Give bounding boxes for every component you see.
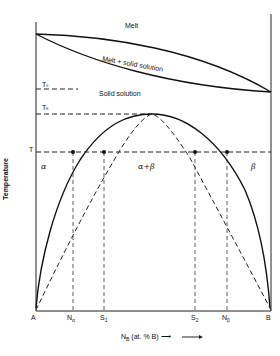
point-n-alpha bbox=[71, 150, 75, 154]
tick-s1: S1 bbox=[100, 314, 107, 323]
tick-a-label: A bbox=[31, 314, 36, 321]
tick-s1-sub: 1 bbox=[105, 317, 108, 323]
point-s1 bbox=[102, 150, 106, 154]
y-axis-label: Temperature bbox=[2, 158, 9, 200]
label-tc: Tₖ bbox=[42, 104, 49, 112]
tick-b-label: B bbox=[266, 314, 271, 321]
solvus-curve bbox=[36, 114, 270, 308]
tick-n-alpha: Nα bbox=[67, 314, 75, 323]
point-n-beta bbox=[225, 150, 229, 154]
tick-n-beta: Nβ bbox=[222, 314, 230, 323]
tick-a: A bbox=[31, 314, 36, 321]
spinodal-curve bbox=[36, 114, 271, 310]
x-axis-label: NB (at. % B) ⟶ bbox=[121, 333, 171, 342]
label-ts: Tₛ bbox=[42, 81, 49, 89]
tick-s2-sub: 2 bbox=[196, 317, 199, 323]
region-alpha: α bbox=[41, 162, 46, 171]
point-s2 bbox=[193, 150, 197, 154]
label-t: T bbox=[29, 146, 33, 153]
tick-n-beta-sub: β bbox=[227, 317, 230, 323]
region-beta: β bbox=[251, 162, 256, 171]
x-axis-arrow-icon bbox=[199, 335, 203, 339]
tick-n-alpha-sub: α bbox=[72, 317, 75, 323]
region-solid-solution: Solid solution bbox=[99, 90, 141, 97]
tick-s2: S2 bbox=[191, 314, 198, 323]
tick-b: B bbox=[266, 314, 271, 321]
x-axis-label-sub: B bbox=[126, 336, 129, 342]
region-alpha-beta: α+β bbox=[138, 162, 155, 171]
x-axis-label-rest: (at. % B) ⟶ bbox=[131, 333, 170, 340]
phase-diagram-canvas bbox=[0, 0, 280, 356]
region-melt: Melt bbox=[125, 22, 138, 29]
